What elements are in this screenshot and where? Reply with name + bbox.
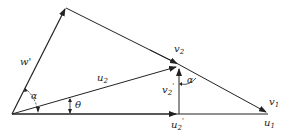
diagram-lines — [0, 0, 287, 138]
v1-label: v1 — [269, 97, 279, 109]
u2-prime-label: u2' — [171, 118, 184, 132]
v2-prime-label: v2' — [162, 83, 174, 97]
w-prime-label: w' — [20, 57, 31, 67]
vector-diagram: w' u2 θ α v2 v2' α v1 u1 u2' — [0, 0, 287, 138]
v1-vector — [178, 64, 266, 112]
u1-label: u1 — [264, 118, 275, 130]
u2-label: u2 — [97, 73, 108, 85]
v2-label: v2 — [174, 44, 184, 56]
theta-label: θ — [75, 100, 81, 110]
alpha-left-label: α — [31, 92, 37, 101]
alpha-right-label: α — [187, 76, 193, 85]
